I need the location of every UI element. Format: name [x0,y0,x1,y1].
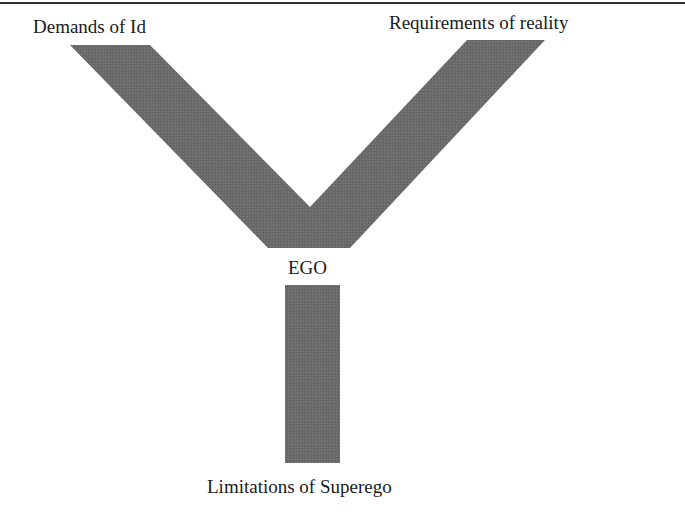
demands-of-id-label: Demands of Id [33,17,146,36]
requirements-of-reality-label: Requirements of reality [389,13,568,32]
limitations-of-superego-label: Limitations of Superego [207,477,392,496]
y-diagram [0,0,685,512]
y-stem-shape [285,285,340,463]
ego-label: EGO [288,258,327,277]
y-arms-shape [70,40,545,248]
